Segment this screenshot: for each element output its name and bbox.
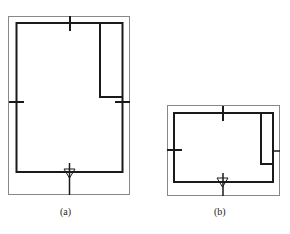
floor-plan-diagram [0,0,290,234]
figure-b-label: (b) [214,206,226,217]
plan-b [167,106,280,197]
plan-a [9,16,131,195]
plan-b-walls [174,113,273,182]
figure-a-label: (a) [60,206,71,217]
plan-b-inner-room [261,113,273,164]
plan-a-inner-room [100,23,123,97]
